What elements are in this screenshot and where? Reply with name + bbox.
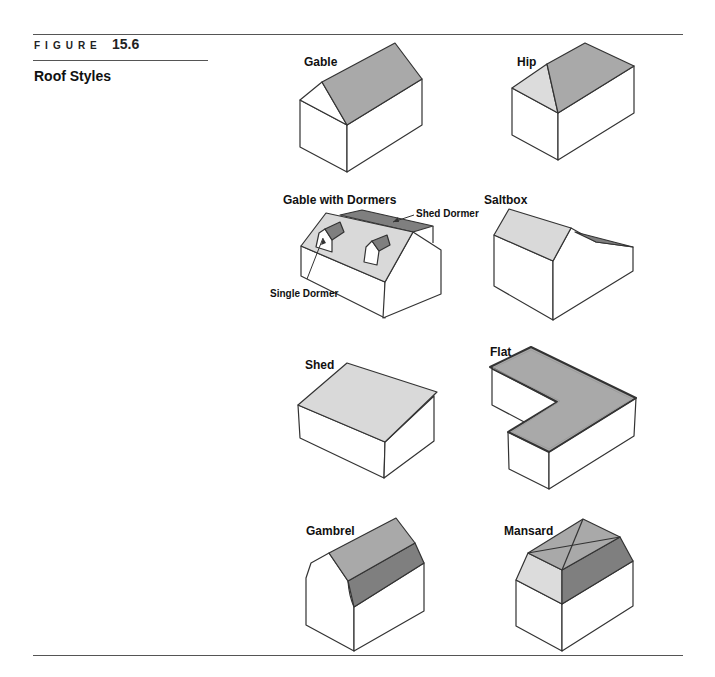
gable-with-dormers-house: Gable with Dormers Shed Dormer Single Do… xyxy=(270,193,479,318)
saltbox-label: Saltbox xyxy=(484,193,528,207)
gable-with-dormers-label: Gable with Dormers xyxy=(283,193,397,207)
mansard-label: Mansard xyxy=(504,524,553,538)
shed-label: Shed xyxy=(305,358,334,372)
flat-house: Flat xyxy=(490,345,636,489)
gambrel-label: Gambrel xyxy=(306,524,355,538)
gable-label: Gable xyxy=(304,55,338,69)
shed-house: Shed xyxy=(298,358,437,478)
hip-label: Hip xyxy=(517,55,536,69)
shed-dormer-callout: Shed Dormer xyxy=(416,208,479,219)
mansard-house: Mansard xyxy=(504,519,633,651)
roof-styles-illustration: Gable Hip Gable with Dormers Shed Dormer… xyxy=(0,0,715,677)
gable-house: Gable xyxy=(300,43,422,172)
hip-house: Hip xyxy=(512,43,634,160)
single-dormer-callout: Single Dormer xyxy=(270,288,338,299)
flat-label: Flat xyxy=(490,345,511,359)
gambrel-house: Gambrel xyxy=(306,518,424,651)
saltbox-house: Saltbox xyxy=(484,193,633,320)
